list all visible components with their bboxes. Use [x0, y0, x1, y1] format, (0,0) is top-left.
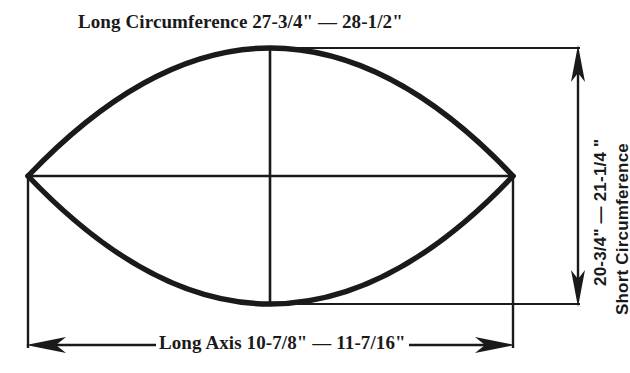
diagram-canvas	[0, 0, 630, 373]
short-circumference-measure-label: 20-3/4" — 21-1/4 "	[590, 137, 611, 288]
axis-lines	[28, 48, 513, 304]
long-axis-label: Long Axis 10-7/8" — 11-7/16"	[156, 333, 409, 352]
short-circumference-name-label: Short Circumference	[614, 143, 630, 315]
short-circumference-dimension-line	[571, 45, 585, 307]
long-circumference-label: Long Circumference 27-3/4" — 28-1/2"	[78, 12, 403, 31]
football-dimension-diagram: Long Circumference 27-3/4" — 28-1/2" Lon…	[0, 0, 630, 373]
